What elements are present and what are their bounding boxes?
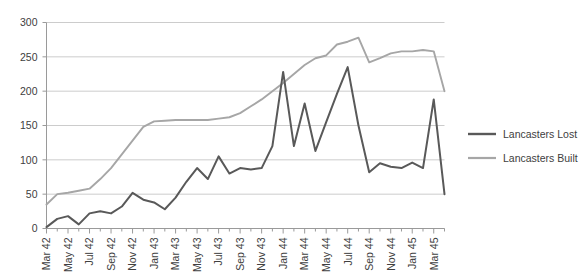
x-axis-tick-label: Sep 43 <box>234 237 246 270</box>
y-axis-tick-label: 150 <box>20 119 38 131</box>
x-axis-tick-label: Jan 43 <box>148 237 160 269</box>
x-axis-tick-label: Sep 42 <box>105 237 117 270</box>
gridlines <box>47 23 445 229</box>
x-axis-tick-label: Jul 44 <box>341 237 353 265</box>
y-axis-tick-label: 0 <box>32 222 38 234</box>
y-axis-tick-label: 200 <box>20 85 38 97</box>
legend-label-lancasters-built: Lancasters Built <box>503 152 578 164</box>
x-axis-tick-label: Mar 44 <box>298 237 310 270</box>
chart-container: 050100150200250300 Mar 42May 42Jul 42Sep… <box>0 0 586 280</box>
x-axis-tick-label: Nov 43 <box>255 237 267 270</box>
legend-label-lancasters-lost: Lancasters Lost <box>503 128 577 140</box>
x-axis-labels: Mar 42May 42Jul 42Sep 42Nov 42Jan 43Mar … <box>40 237 439 272</box>
x-axis-tick-label: May 43 <box>191 237 203 272</box>
x-axis-tickmarks <box>47 229 445 234</box>
x-axis-tick-label: Nov 44 <box>385 237 397 270</box>
y-axis-tick-label: 300 <box>20 16 38 28</box>
x-axis-tick-label: Mar 42 <box>40 237 52 270</box>
x-axis-tick-label: Mar 43 <box>169 237 181 270</box>
x-axis-tick-label: Nov 42 <box>126 237 138 270</box>
y-axis-tick-label: 50 <box>26 188 38 200</box>
line-chart: 050100150200250300 Mar 42May 42Jul 42Sep… <box>0 0 586 280</box>
x-axis-tick-label: Jan 45 <box>406 237 418 269</box>
data-series <box>47 38 445 228</box>
chart-legend: Lancasters LostLancasters Built <box>468 128 578 164</box>
x-axis-tick-label: Jan 44 <box>277 237 289 269</box>
x-axis-tick-label: May 44 <box>320 237 332 272</box>
series-line-lancasters-built <box>47 38 445 205</box>
x-axis-tick-label: May 42 <box>62 237 74 272</box>
x-axis-tick-label: Jul 42 <box>83 237 95 265</box>
x-axis-tick-label: Sep 44 <box>363 237 375 270</box>
x-axis-tick-label: Mar 45 <box>428 237 440 270</box>
y-axis-tickmarks <box>43 23 47 229</box>
y-axis-tick-label: 250 <box>20 51 38 63</box>
y-axis-tick-label: 100 <box>20 154 38 166</box>
x-axis-tick-label: Jul 43 <box>212 237 224 265</box>
y-axis-labels: 050100150200250300 <box>20 16 38 234</box>
